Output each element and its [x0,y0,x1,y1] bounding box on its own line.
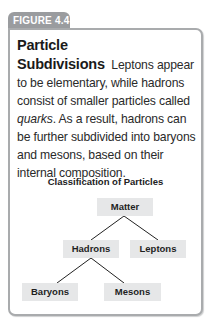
tree-connector-lines [0,0,209,330]
node-leptons: Leptons [130,240,186,258]
node-matter: Matter [97,198,153,216]
node-mesons: Mesons [104,283,161,301]
node-hadrons: Hadrons [63,240,119,258]
node-baryons: Baryons [22,283,78,301]
